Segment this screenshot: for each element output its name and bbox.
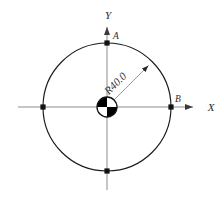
radius-dimension-label: R40.0 bbox=[101, 69, 129, 97]
point-label-a: A bbox=[112, 31, 119, 41]
labels-group: Y X A B bbox=[105, 9, 216, 113]
point-marker-left bbox=[40, 104, 45, 109]
technical-drawing-figure: R40.0 Y X A B bbox=[0, 0, 222, 203]
point-label-b: B bbox=[175, 94, 181, 104]
center-hub-symbol bbox=[97, 97, 117, 117]
point-marker-a bbox=[104, 40, 109, 45]
x-axis-label: X bbox=[207, 101, 216, 113]
diagram-canvas: R40.0 Y X A B bbox=[0, 0, 222, 203]
point-marker-bottom bbox=[104, 168, 109, 173]
y-axis-label: Y bbox=[105, 9, 113, 21]
point-marker-b bbox=[168, 104, 173, 109]
